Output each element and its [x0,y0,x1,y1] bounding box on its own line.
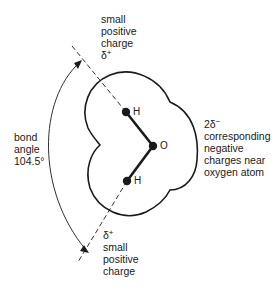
right-label-line4: oxygen atom [204,166,271,178]
top-delta-plus: δ+ [101,49,137,61]
bottom-label-line1: small [103,241,139,253]
oxygen-atom [149,142,157,150]
hydrogen-label-bottom: H [134,176,141,186]
top-charge-label: small positive charge δ+ [101,13,137,61]
bond-top [126,112,153,146]
right-label-line3: charges near [204,154,271,166]
bottom-label-line3: charge [103,265,139,277]
delta-superscript: − [216,117,221,126]
hydrogen-atom-top [122,108,130,116]
oxygen-label: O [160,141,168,151]
delta-superscript: + [107,48,112,57]
top-label-line1: small [101,13,137,25]
bond-angle-arc [48,62,86,250]
bond-angle-label: bond angle 104.5° [14,131,44,167]
hydrogen-atom-bottom [123,177,131,185]
right-label-line2: negative [204,142,271,154]
top-label-line2: positive [101,25,137,37]
angle-label-value: 104.5° [14,155,44,167]
angle-label-line2: angle [14,143,44,155]
negative-charge-label: 2δ− corresponding negative charges near … [204,118,271,178]
hydrogen-label-top: H [133,107,140,117]
right-delta-minus: 2δ− [204,118,271,130]
right-label-line1: corresponding [204,130,271,142]
bottom-label-line2: positive [103,253,139,265]
arc-arrowhead-top [74,60,82,69]
two-delta-symbol: 2δ [204,118,216,130]
bottom-charge-label: δ+ small positive charge [103,229,139,277]
delta-superscript: + [109,228,114,237]
electron-cloud-outline [85,72,197,216]
angle-label-line1: bond [14,131,44,143]
bottom-delta-plus: δ+ [103,229,139,241]
